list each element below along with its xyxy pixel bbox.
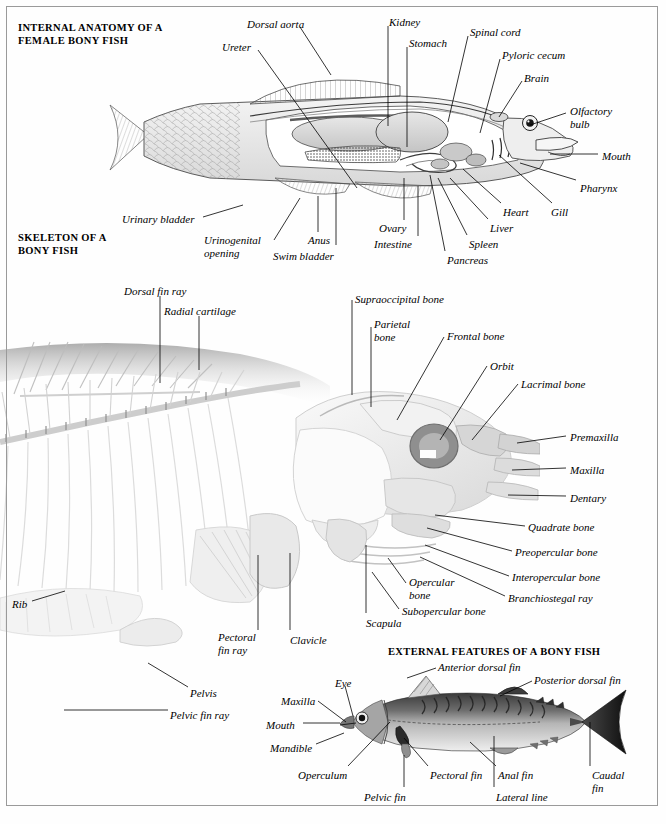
label-internal-olfactory-bulb: Olfactory bulb [570, 105, 612, 130]
label-internal-urinogenital-opening: Urinogenital opening [204, 234, 261, 259]
label-internal-spleen: Spleen [469, 238, 498, 251]
label-skeleton-branchiostegal-ray: Branchiostegal ray [508, 592, 593, 605]
label-internal-pancreas: Pancreas [447, 254, 488, 267]
label-external-posterior-dorsal-fin: Posterior dorsal fin [534, 674, 621, 687]
label-skeleton-orbit: Orbit [490, 360, 514, 373]
label-external-operculum: Operculum [298, 769, 347, 782]
label-external-pectoral-fin: Pectoral fin [430, 769, 482, 782]
label-internal-pyloric-cecum: Pyloric cecum [502, 49, 565, 62]
external-features-illustration [330, 672, 640, 784]
label-internal-dorsal-aorta: Dorsal aorta [247, 18, 304, 31]
internal-anatomy-illustration [100, 60, 580, 210]
label-skeleton-pectoral-fin-ray: Pectoral fin ray [218, 631, 256, 656]
label-skeleton-preopercular-bone: Preopercular bone [515, 546, 598, 559]
label-external-anal-fin: Anal fin [498, 769, 533, 782]
label-skeleton-opercular-bone: Opercular bone [409, 576, 454, 601]
label-internal-ovary: Ovary [379, 222, 407, 235]
label-internal-intestine: Intestine [374, 238, 412, 251]
label-skeleton-frontal-bone: Frontal bone [447, 330, 504, 343]
label-skeleton-maxilla: Maxilla [570, 464, 604, 477]
label-external-maxilla: Maxilla [281, 695, 315, 708]
label-skeleton-lacrimal-bone: Lacrimal bone [521, 378, 585, 391]
label-external-mandible: Mandible [270, 742, 312, 755]
label-external-anterior-dorsal-fin: Anterior dorsal fin [438, 661, 521, 674]
label-skeleton-quadrate-bone: Quadrate bone [528, 521, 594, 534]
label-internal-heart: Heart [503, 206, 529, 219]
label-external-caudal-fin: Caudal fin [592, 769, 624, 794]
label-skeleton-parietal-bone: Parietal bone [374, 318, 410, 343]
label-internal-kidney: Kidney [389, 16, 420, 29]
label-skeleton-radial-cartilage: Radial cartilage [164, 305, 236, 318]
section-title-external-features: EXTERNAL FEATURES OF A BONY FISH [388, 646, 600, 659]
label-internal-urinary-bladder: Urinary bladder [122, 213, 194, 226]
label-external-eye: Eye [335, 677, 351, 690]
label-skeleton-rib: Rib [12, 598, 27, 611]
label-internal-stomach: Stomach [409, 37, 447, 50]
label-internal-gill: Gill [551, 206, 568, 219]
label-internal-brain: Brain [524, 72, 549, 85]
label-internal-mouth: Mouth [602, 150, 631, 163]
label-internal-pharynx: Pharynx [580, 182, 617, 195]
label-internal-anus: Anus [308, 234, 330, 247]
label-internal-liver: Liver [490, 222, 513, 235]
label-skeleton-supraoccipital-bone: Supraoccipital bone [355, 293, 444, 306]
anatomy-plate: INTERNAL ANATOMY OF A FEMALE BONY FISH S… [0, 0, 666, 824]
label-skeleton-pelvis: Pelvis [190, 687, 217, 700]
section-title-internal-anatomy: INTERNAL ANATOMY OF A FEMALE BONY FISH [18, 22, 163, 47]
label-external-lateral-line: Lateral line [496, 791, 548, 804]
label-external-pelvic-fin: Pelvic fin [364, 791, 406, 804]
label-skeleton-premaxilla: Premaxilla [570, 431, 618, 444]
label-skeleton-pelvic-fin-ray: Pelvic fin ray [170, 709, 229, 722]
label-internal-ureter: Ureter [222, 41, 251, 54]
label-skeleton-dorsal-fin-ray: Dorsal fin ray [124, 285, 186, 298]
label-internal-swim-bladder: Swim bladder [273, 250, 334, 263]
label-skeleton-interopercular-bone: Interopercular bone [512, 571, 600, 584]
label-skeleton-scapula: Scapula [366, 617, 401, 630]
label-internal-spinal-cord: Spinal cord [470, 26, 521, 39]
section-title-skeleton: SKELETON OF A BONY FISH [18, 232, 107, 257]
label-skeleton-dentary: Dentary [570, 492, 606, 505]
label-skeleton-clavicle: Clavicle [290, 634, 327, 647]
label-external-mouth: Mouth [266, 719, 295, 732]
label-skeleton-subopercular-bone: Subopercular bone [402, 605, 486, 618]
